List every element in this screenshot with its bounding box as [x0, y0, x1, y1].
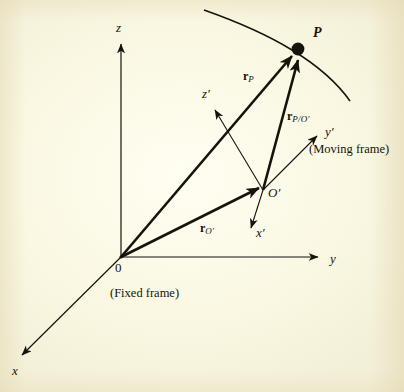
- figure-canvas: z y x 0 (Fixed frame) z′ y′ x′ O′ (Movin…: [0, 0, 404, 392]
- axis-label-y: y: [330, 252, 336, 265]
- axis-label-z-prime: z′: [202, 87, 210, 100]
- fixed-frame-caption: (Fixed frame): [110, 287, 179, 300]
- point-P-label: P: [313, 26, 322, 40]
- vector-label-r-P-subscript: P: [248, 74, 254, 84]
- trajectory-curve: [204, 10, 350, 101]
- diagram-svg: [0, 0, 404, 392]
- vector-label-r-Oprime-subscript: O′: [205, 226, 214, 236]
- moving-origin-label: O′: [268, 186, 280, 199]
- origin-marker: [119, 255, 122, 258]
- vector-label-r-P: rP: [243, 70, 254, 84]
- axis-label-z: z: [116, 21, 121, 34]
- axis-label-y-prime: y′: [325, 125, 334, 138]
- axis-label-x-prime: x′: [256, 226, 265, 239]
- vector-label-r-Oprime: rO′: [200, 222, 214, 236]
- axis-z-prime-line: [215, 110, 263, 190]
- origin-label: 0: [115, 261, 122, 274]
- axis-x-line: [22, 257, 121, 355]
- vector-label-r-P-rel-Oprime-subscript: P/O′: [292, 114, 309, 124]
- vector-label-r-P-rel-Oprime: rP/O′: [287, 110, 310, 124]
- moving-frame-caption: (Moving frame): [309, 143, 389, 156]
- axis-x-prime-line: [251, 190, 263, 228]
- vector-r-Oprime: [121, 188, 259, 257]
- vector-r-P-rel-Oprime: [263, 60, 298, 190]
- point-P-marker: [292, 43, 305, 56]
- axis-label-x: x: [12, 364, 18, 377]
